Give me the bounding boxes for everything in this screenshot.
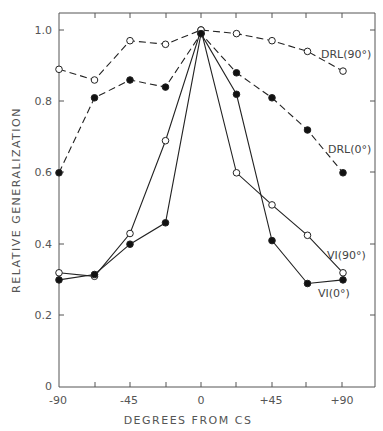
data-point (340, 68, 347, 75)
data-point (269, 202, 276, 209)
plot-frame (59, 13, 375, 387)
data-point (162, 220, 169, 227)
data-point (127, 77, 134, 84)
data-point (56, 170, 63, 177)
data-point (269, 95, 276, 102)
data-point (127, 241, 134, 248)
data-point (56, 270, 63, 277)
data-point (304, 232, 311, 239)
data-point (162, 41, 169, 48)
data-point (91, 95, 98, 102)
series-line-drl-0- (59, 34, 343, 173)
y-tick-0.8: 0.8 (35, 95, 53, 108)
y-tick-0.4: 0.4 (35, 238, 53, 251)
data-point (269, 37, 276, 44)
label-vi-90: VI(90°) (327, 249, 366, 262)
label-drl-0: DRL(0°) (328, 143, 371, 156)
series-line-drl-90- (59, 30, 343, 80)
data-point (233, 91, 240, 98)
data-point (198, 30, 205, 37)
data-point (233, 170, 240, 177)
data-point (162, 137, 169, 144)
label-drl-90: DRL(90°) (321, 48, 371, 61)
x-tick-m45: -45 (120, 394, 138, 407)
x-tick-m90: -90 (49, 394, 67, 407)
data-point (304, 127, 311, 134)
y-tick-0.2: 0.2 (35, 309, 53, 322)
data-point (340, 170, 347, 177)
data-point (162, 84, 169, 91)
data-point (340, 277, 347, 284)
x-tick-p45: +45 (259, 394, 282, 407)
y-axis-title: RELATIVE GENERALIZATION (10, 107, 23, 293)
y-tick-1.0: 1.0 (35, 24, 53, 37)
series-lines (59, 30, 343, 284)
data-point (91, 77, 98, 84)
data-point (269, 237, 276, 244)
y-tick-0: 0 (45, 380, 52, 393)
x-ticks (95, 13, 342, 387)
data-point (304, 280, 311, 287)
x-axis-title: DEGREES FROM CS (124, 414, 253, 427)
x-tick-labels: -90 -45 0 +45 +90 (49, 394, 354, 407)
x-tick-0: 0 (198, 394, 205, 407)
data-point (127, 37, 134, 44)
data-point (56, 66, 63, 73)
series-line-vi-0- (59, 34, 343, 284)
label-vi-0: VI(0°) (318, 287, 350, 300)
y-tick-0.6: 0.6 (35, 166, 53, 179)
data-point (233, 70, 240, 77)
series-line-vi-90- (59, 30, 343, 276)
data-point (91, 271, 98, 278)
x-tick-p90: +90 (330, 394, 353, 407)
data-point (304, 48, 311, 55)
generalization-chart: 1.0 0.8 0.6 0.4 0.2 0 -90 -45 0 +45 +90 … (0, 0, 383, 431)
data-point (127, 230, 134, 237)
y-tick-labels: 1.0 0.8 0.6 0.4 0.2 0 (35, 24, 53, 393)
data-point (56, 277, 63, 284)
data-point (233, 30, 240, 37)
y-ticks (59, 30, 375, 315)
data-point (340, 270, 347, 277)
series-markers (56, 27, 347, 287)
